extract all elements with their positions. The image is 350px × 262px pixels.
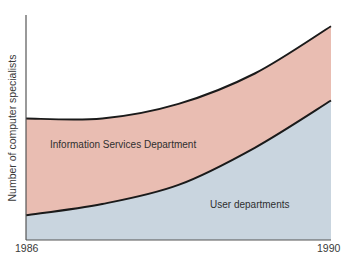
x-tick-1990: 1990 [317, 242, 340, 254]
information-services-label: Information Services Department [50, 139, 196, 150]
stacked-area-chart [0, 0, 350, 262]
x-tick-1986: 1986 [15, 242, 38, 254]
user-departments-label: User departments [210, 199, 289, 210]
y-axis-label: Number of computer specialists [6, 54, 18, 201]
